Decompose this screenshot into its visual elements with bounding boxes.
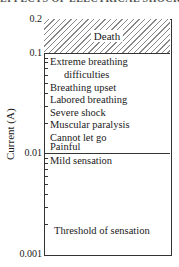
tick-label-0-1: 0.1 bbox=[2, 47, 42, 58]
minor-tick bbox=[44, 184, 48, 185]
minor-tick bbox=[44, 158, 48, 159]
divider-0-01 bbox=[44, 153, 170, 154]
minor-tick bbox=[44, 163, 48, 164]
zone-severe-shock: Severe shock bbox=[50, 108, 106, 119]
zone-extreme-breathing-2: difficulties bbox=[64, 70, 109, 81]
tick-label-0-001: 0.001 bbox=[2, 248, 42, 259]
minor-tick bbox=[44, 75, 48, 76]
minor-tick bbox=[44, 194, 48, 195]
zone-breathing-upset: Breathing upset bbox=[50, 83, 116, 94]
minor-tick bbox=[44, 93, 48, 94]
death-label: Death bbox=[91, 30, 123, 42]
tick-label-0-2: 0.2 bbox=[2, 13, 42, 24]
minor-tick bbox=[44, 58, 48, 59]
minor-tick bbox=[44, 68, 48, 69]
zone-threshold: Threshold of sensation bbox=[54, 226, 150, 237]
minor-tick bbox=[44, 123, 48, 124]
tick-label-0-01: 0.01 bbox=[2, 147, 42, 158]
zone-painful: Painful bbox=[50, 142, 80, 153]
minor-tick bbox=[44, 62, 48, 63]
minor-tick bbox=[44, 83, 48, 84]
cut-off-title: EFFECTS OF ELECTRICAL SHOCK bbox=[0, 0, 179, 4]
death-band: Death bbox=[44, 19, 170, 54]
zone-labored-breathing: Labored breathing bbox=[50, 95, 127, 106]
minor-tick bbox=[44, 207, 48, 208]
minor-tick bbox=[44, 176, 48, 177]
minor-tick bbox=[44, 106, 48, 107]
minor-tick bbox=[44, 224, 48, 225]
minor-tick bbox=[44, 169, 48, 170]
zone-muscular-paralysis: Muscular paralysis bbox=[50, 120, 130, 131]
zone-mild-sensation: Mild sensation bbox=[50, 156, 112, 167]
zone-extreme-breathing: Extreme breathing bbox=[50, 57, 128, 68]
